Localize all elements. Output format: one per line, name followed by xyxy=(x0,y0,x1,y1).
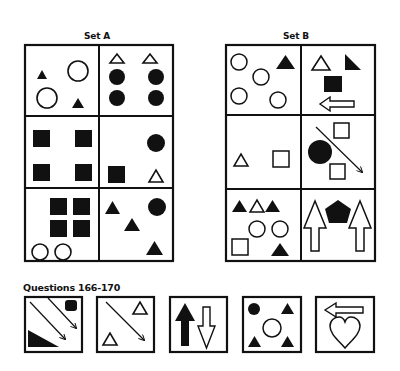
question-166[interactable] xyxy=(25,297,82,352)
black-circle xyxy=(148,198,166,216)
white-triangle xyxy=(250,200,264,212)
set-b-cell-1-2 xyxy=(312,54,361,111)
set-a-cell-1-2 xyxy=(109,54,164,106)
black-circle xyxy=(148,90,164,106)
black-square xyxy=(73,220,90,237)
black-circle xyxy=(308,140,332,164)
white-circle xyxy=(249,221,265,237)
black-square xyxy=(108,166,125,183)
black-circle xyxy=(147,134,165,152)
set-a-cell-3-2 xyxy=(105,198,166,255)
black-square xyxy=(33,164,50,181)
white-circle xyxy=(37,88,57,108)
set-b-cell-3-1 xyxy=(232,200,289,256)
black-square xyxy=(73,198,90,215)
white-circle xyxy=(68,61,88,81)
black-square xyxy=(75,130,92,147)
white-circle xyxy=(231,54,247,70)
black-triangle xyxy=(265,200,280,212)
white-square xyxy=(330,164,345,179)
question-169[interactable] xyxy=(243,297,301,352)
white-circle xyxy=(270,92,286,108)
white-circle xyxy=(55,244,71,260)
black-square xyxy=(33,130,50,147)
white-circle xyxy=(272,221,288,237)
black-pentagon xyxy=(325,200,351,223)
black-circle xyxy=(148,69,164,85)
black-square xyxy=(50,198,67,215)
black-circle xyxy=(109,90,125,106)
black-triangle xyxy=(146,241,163,255)
white-circle xyxy=(231,88,247,104)
set-a-cell-1-1 xyxy=(37,61,88,108)
black-triangle xyxy=(271,243,289,256)
white-square xyxy=(232,239,248,255)
black-circle xyxy=(248,303,260,315)
black-triangle xyxy=(276,55,295,69)
black-square xyxy=(324,76,342,92)
set-a-cell-2-2 xyxy=(108,134,165,183)
question-168[interactable] xyxy=(170,297,227,352)
puzzle-canvas xyxy=(0,0,400,371)
black-triangle xyxy=(232,200,247,212)
black-triangle xyxy=(72,98,84,108)
white-triangle xyxy=(234,154,248,166)
set-a-cell-2-1 xyxy=(33,130,92,181)
white-circle xyxy=(253,69,269,85)
black-rounded-square xyxy=(65,300,77,311)
question-170[interactable] xyxy=(316,297,374,352)
black-triangle xyxy=(124,218,140,231)
white-triangle xyxy=(143,54,157,63)
white-triangle xyxy=(110,54,124,63)
white-square xyxy=(334,123,349,138)
set-b-cell-2-1 xyxy=(234,151,289,167)
black-circle xyxy=(109,69,125,85)
white-up-arrow xyxy=(349,201,371,251)
question-167[interactable] xyxy=(97,297,154,352)
set-b-cell-1-1 xyxy=(231,54,295,108)
white-left-arrow xyxy=(320,97,354,111)
set-b-cell-3-2 xyxy=(304,200,371,251)
white-circle xyxy=(32,244,48,260)
black-triangle xyxy=(105,201,120,214)
white-square xyxy=(273,151,289,167)
black-triangle xyxy=(37,70,47,79)
white-triangle xyxy=(149,170,163,182)
set-b-cell-2-2 xyxy=(308,123,362,179)
black-square xyxy=(50,220,67,237)
black-square xyxy=(75,164,92,181)
white-up-arrow xyxy=(304,201,326,251)
white-triangle xyxy=(312,56,330,70)
set-a-cell-3-1 xyxy=(32,198,90,260)
black-right-triangle xyxy=(345,54,361,70)
white-circle xyxy=(263,319,281,337)
